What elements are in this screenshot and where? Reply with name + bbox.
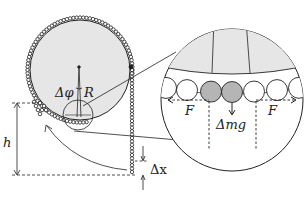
weight-label: Δmg — [216, 118, 246, 131]
hanging-chain — [130, 68, 133, 173]
tangent-point — [129, 65, 134, 70]
angle-label: Δφ — [55, 86, 74, 99]
radius-label: R — [84, 86, 94, 99]
dx-label: Δx — [150, 163, 167, 176]
force-left-label: F — [185, 104, 194, 117]
height-label: h — [3, 136, 11, 149]
force-right-label: F — [268, 104, 277, 117]
diagram-canvas: Δφ R h Δx F F Δmg — [0, 0, 307, 201]
inset — [150, 20, 307, 171]
dx-dimension — [135, 146, 148, 190]
